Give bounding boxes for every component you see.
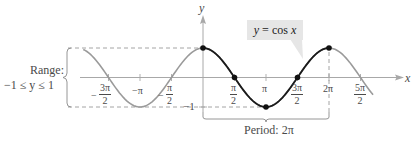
x-tick-label-pi-over-2: π 2	[230, 83, 237, 106]
period-bracket	[203, 112, 329, 122]
x-tick-label-neg-3pi-over-2: 3π 2	[99, 83, 111, 106]
key-point-zero-half-pi	[232, 75, 238, 81]
equation-callout: y = cos x	[247, 20, 303, 40]
x-tick-label-neg-pi-over-2: π 2	[166, 83, 173, 106]
callout-eq: = cos	[259, 23, 291, 38]
x-tick-label-3pi-over-2: 3π 2	[291, 83, 303, 106]
key-point-min-pi	[263, 104, 269, 110]
y-axis-label: y	[199, 2, 204, 14]
period-label: Period: 2π	[244, 124, 294, 136]
callout-tail	[290, 39, 303, 59]
range-brace	[63, 48, 71, 107]
range-value: −1 ≤ y ≤ 1	[4, 79, 54, 91]
callout-x: x	[291, 23, 296, 38]
x-tick-label-2pi: 2π	[323, 84, 333, 94]
x-axis-label: x	[405, 72, 410, 84]
x-tick-label-pi: π	[262, 84, 267, 94]
x-tick-label-neg-pi: −π	[132, 86, 143, 96]
range-title: Range:	[30, 64, 64, 76]
x-tick-label-5pi-over-2: 5π 2	[354, 83, 366, 106]
key-point-max-0	[200, 45, 206, 51]
key-point-max-two-pi	[326, 45, 332, 51]
x-tick-minus-sign-3pi2: −	[91, 90, 97, 101]
x-tick-minus-sign-pi2: −	[158, 90, 164, 101]
y-tick-label-minus-one: −1	[183, 101, 195, 112]
key-point-zero-three-half-pi	[295, 75, 301, 81]
